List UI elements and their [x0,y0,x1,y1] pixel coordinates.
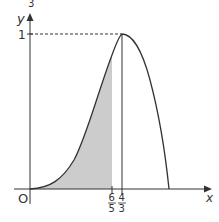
x-tick-6-5-den: 5 [109,203,115,214]
page-marker: 3 [28,0,34,9]
y-tick-label: 1 [18,28,26,42]
graph-labels: 3 y 1 x O 6 5 4 3 [0,0,219,222]
x-tick-6-5-num: 6 [109,192,115,203]
y-axis-label: y [16,11,25,26]
x-tick-4-3-num: 4 [119,192,125,203]
origin-label: O [18,191,28,206]
x-axis-label: x [205,191,214,205]
x-tick-4-3-den: 3 [119,203,125,214]
